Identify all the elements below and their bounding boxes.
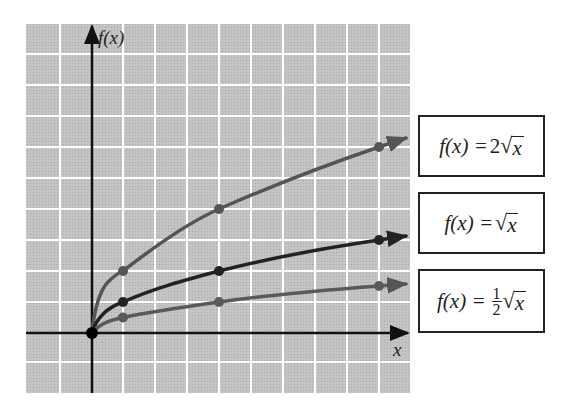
sqrt-symbol: √x: [500, 133, 523, 159]
legend-sqrt-x: f(x) = √x: [418, 192, 545, 254]
legend-2-sqrt-x: f(x) = 2 √x: [418, 115, 545, 177]
sqrt-symbol: √x: [495, 210, 518, 236]
legend-prefix: f(x) =: [439, 134, 488, 159]
legend-coef: 2: [490, 134, 501, 159]
legend-half-sqrt-x: f(x) = 1 2 √x: [418, 269, 545, 333]
fraction-one-half: 1 2: [492, 286, 502, 317]
y-axis-label: f(x): [98, 27, 124, 49]
legend-prefix: f(x) =: [445, 211, 494, 236]
x-axis-label: x: [392, 339, 402, 360]
legend-prefix: f(x) =: [437, 289, 486, 314]
sqrt-symbol: √x: [503, 288, 526, 314]
